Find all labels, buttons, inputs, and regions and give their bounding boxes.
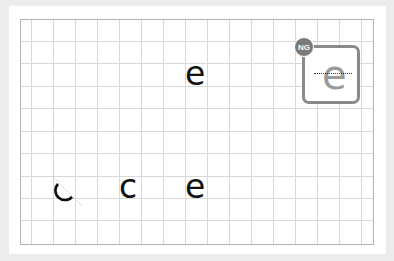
- grid-line: [251, 20, 252, 244]
- grid-line: [273, 20, 274, 244]
- grid-line: [21, 108, 373, 109]
- grid-line: [21, 131, 373, 132]
- ng-badge: NG: [294, 37, 314, 57]
- ng-example-letter: e: [322, 55, 347, 95]
- partial-c-stroke-icon: [48, 172, 88, 212]
- grid-line: [229, 20, 230, 244]
- grid-line: [21, 220, 373, 221]
- grid-line: [21, 41, 373, 42]
- grid-line: [119, 20, 120, 244]
- grid-line: [207, 20, 208, 244]
- grid-line: [163, 20, 164, 244]
- grid-line: [21, 153, 373, 154]
- grid-line: [361, 20, 362, 244]
- grid-line: [97, 20, 98, 244]
- practice-letter-e: e: [185, 170, 205, 203]
- ng-dotted-guide: [314, 73, 352, 74]
- target-letter: e: [185, 57, 205, 90]
- grid-line: [31, 20, 32, 244]
- grid-line: [141, 20, 142, 244]
- practice-letter-c: c: [119, 170, 137, 203]
